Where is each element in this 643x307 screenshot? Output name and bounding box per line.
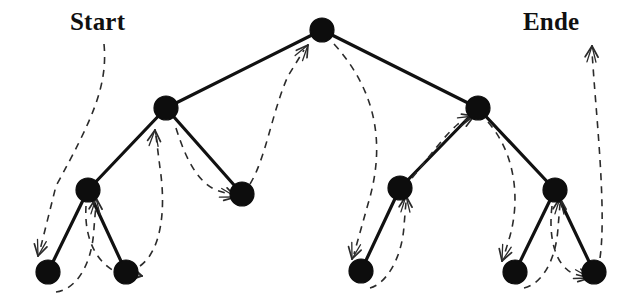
diagram-canvas <box>0 0 643 307</box>
tree-node[interactable] <box>503 260 527 284</box>
tree-edge <box>322 30 478 108</box>
end-label: Ende <box>523 8 579 36</box>
tree-node[interactable] <box>114 260 138 284</box>
tree-node[interactable] <box>76 178 100 202</box>
tree-edge <box>88 108 166 190</box>
traversal-arrowheads-layer <box>32 41 599 284</box>
start-label: Start <box>70 8 125 36</box>
traversal-path-layer <box>40 44 602 292</box>
tree-edges-layer <box>48 30 594 272</box>
tree-edge <box>48 190 88 272</box>
tree-edge <box>478 108 555 190</box>
tree-node[interactable] <box>230 182 254 206</box>
tree-edge <box>166 30 322 108</box>
traversal-path-segment <box>334 44 377 254</box>
tree-edge <box>166 108 242 194</box>
tree-node[interactable] <box>543 178 567 202</box>
tree-node[interactable] <box>36 260 60 284</box>
tree-edge <box>515 190 555 272</box>
traversal-path-segment <box>250 50 304 184</box>
tree-node[interactable] <box>582 260 606 284</box>
traversal-arrowhead-icon <box>147 129 161 146</box>
tree-node[interactable] <box>349 259 373 283</box>
traversal-arrowhead-icon <box>496 244 513 263</box>
tree-node[interactable] <box>388 176 412 200</box>
traversal-path-segment <box>176 128 232 195</box>
traversal-arrowhead-icon <box>32 239 48 258</box>
traversal-path-segment <box>592 52 602 258</box>
tree-node[interactable] <box>310 18 334 42</box>
tree-node[interactable] <box>466 96 490 120</box>
tree-node[interactable] <box>154 96 178 120</box>
traversal-path-segment <box>140 136 163 266</box>
tree-traversal-diagram: Start Ende <box>0 0 643 307</box>
tree-edge <box>361 188 400 271</box>
traversal-arrowhead-icon <box>585 46 599 62</box>
